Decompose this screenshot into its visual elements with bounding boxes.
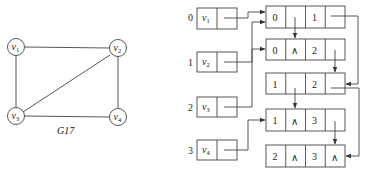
svg-text:2: 2 xyxy=(188,102,193,113)
edge-node-3: 1 ∧ 3 xyxy=(266,109,345,131)
edge-v1-v2 xyxy=(24,47,111,48)
edge-nodes: 0 1 0 ∧ 2 xyxy=(266,6,345,167)
svg-text:2: 2 xyxy=(273,151,278,162)
vertex-v1: v1 xyxy=(8,39,25,56)
svg-text:3: 3 xyxy=(312,151,317,162)
vertex-row-3: 3 v4 xyxy=(188,140,237,160)
svg-text:0: 0 xyxy=(273,12,278,23)
svg-text:3: 3 xyxy=(188,145,193,156)
svg-text:3: 3 xyxy=(312,115,317,126)
svg-text:2: 2 xyxy=(312,45,317,56)
vertex-row-1: 1 v2 xyxy=(188,52,237,72)
edge-node-0: 0 1 xyxy=(266,6,345,28)
vertex-row-0: 0 v1 xyxy=(188,8,237,29)
svg-text:∧: ∧ xyxy=(291,152,298,163)
vertex-row-2: 2 v3 xyxy=(188,97,237,117)
vertex-v3: v3 xyxy=(8,108,25,125)
graph-caption: G17 xyxy=(57,125,75,136)
svg-text:∧: ∧ xyxy=(331,152,338,163)
svg-text:∧: ∧ xyxy=(291,116,298,127)
vertex-table: 0 v1 1 v2 2 v3 3 xyxy=(188,8,237,160)
svg-text:2: 2 xyxy=(312,79,317,90)
edge-node-2: 1 2 xyxy=(266,73,345,94)
diagram-canvas: v1 v2 v3 v4 G17 xyxy=(0,0,367,174)
svg-text:1: 1 xyxy=(273,115,278,126)
svg-text:∧: ∧ xyxy=(291,45,298,56)
adjacency-multilist: 0 v1 1 v2 2 v3 3 xyxy=(188,6,359,167)
svg-text:1: 1 xyxy=(312,12,317,23)
edge-node-1: 0 ∧ 2 xyxy=(266,39,345,60)
svg-text:1: 1 xyxy=(188,57,193,68)
edge-v3-v4 xyxy=(24,116,110,117)
svg-text:0: 0 xyxy=(188,12,193,23)
vertex-v2: v2 xyxy=(110,40,127,57)
svg-text:1: 1 xyxy=(273,79,278,90)
edge-node-4: 2 ∧ 3 ∧ xyxy=(266,145,345,167)
edge-v2-v3 xyxy=(23,55,110,112)
svg-text:0: 0 xyxy=(273,45,278,56)
graph-g17: v1 v2 v3 v4 G17 xyxy=(8,39,127,137)
vertex-v4: v4 xyxy=(110,109,127,126)
